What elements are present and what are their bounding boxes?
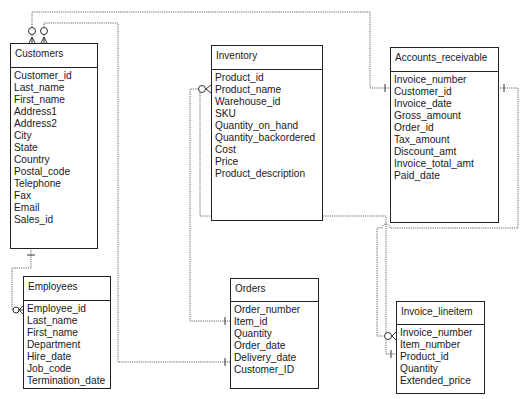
field-customer-id: Customer_id — [14, 70, 93, 82]
entity-title: Customers — [11, 44, 97, 68]
field-product-id: Product_id — [400, 351, 480, 363]
field-quantity: Quantity — [234, 328, 314, 340]
field-sku: SKU — [215, 108, 318, 120]
entity-title: Accounts_receivable — [391, 48, 498, 72]
field-hire-date: Hire_date — [27, 351, 106, 363]
field-order-id: Order_id — [394, 122, 494, 134]
field-gross-amount: Gross_amount — [394, 110, 494, 122]
field-invoice-total-amt: Invoice_total_amt — [394, 158, 494, 170]
field-last-name: Last_name — [14, 82, 93, 94]
field-fax: Fax — [14, 190, 93, 202]
field-order-number: Order_number — [234, 304, 314, 316]
field-order-date: Order_date — [234, 340, 314, 352]
field-list: Order_number Item_id Quantity Order_date… — [231, 302, 318, 376]
field-quantity: Quantity — [400, 363, 480, 375]
field-customer-id: Customer_ID — [234, 364, 314, 376]
field-last-name: Last_name — [27, 315, 106, 327]
entity-accounts-receivable[interactable]: Accounts_receivable Invoice_number Custo… — [390, 47, 499, 223]
field-termination-date: Termination_date — [27, 375, 106, 387]
field-list: Invoice_number Customer_id Invoice_date … — [391, 72, 498, 182]
entity-title: Employees — [24, 277, 110, 301]
entity-title: Inventory — [212, 46, 322, 70]
field-delivery-date: Delivery_date — [234, 352, 314, 364]
field-warehouse-id: Warehouse_id — [215, 96, 318, 108]
field-item-number: Item_number — [400, 339, 480, 351]
field-quantity-on-hand: Quantity_on_hand — [215, 120, 318, 132]
field-address1: Address1 — [14, 106, 93, 118]
field-list: Employee_id Last_name First_name Departm… — [24, 301, 110, 387]
field-tax-amount: Tax_amount — [394, 134, 494, 146]
entity-employees[interactable]: Employees Employee_id Last_name First_na… — [23, 276, 111, 389]
field-first-name: First_name — [14, 94, 93, 106]
field-job-code: Job_code — [27, 363, 106, 375]
entity-title: Orders — [231, 279, 318, 302]
field-telephone: Telephone — [14, 178, 93, 190]
field-price: Price — [215, 156, 318, 168]
field-city: City — [14, 130, 93, 142]
field-product-id: Product_id — [215, 72, 318, 84]
field-list: Customer_id Last_name First_name Address… — [11, 68, 97, 226]
field-employee-id: Employee_id — [27, 303, 106, 315]
field-list: Invoice_number Item_number Product_id Qu… — [397, 325, 484, 387]
field-address2: Address2 — [14, 118, 93, 130]
field-country: Country — [14, 154, 93, 166]
field-postal-code: Postal_code — [14, 166, 93, 178]
field-department: Department — [27, 339, 106, 351]
entity-title: Invoice_lineitem — [397, 302, 484, 325]
field-invoice-date: Invoice_date — [394, 98, 494, 110]
field-list: Product_id Product_name Warehouse_id SKU… — [212, 70, 322, 180]
field-product-name: Product_name — [215, 84, 318, 96]
field-invoice-number: Invoice_number — [394, 74, 494, 86]
field-product-description: Product_description — [215, 168, 318, 180]
field-email: Email — [14, 202, 93, 214]
field-item-id: Item_id — [234, 316, 314, 328]
field-paid-date: Paid_date — [394, 170, 494, 182]
field-sales-id: Sales_id — [14, 214, 93, 226]
field-cost: Cost — [215, 144, 318, 156]
field-customer-id: Customer_id — [394, 86, 494, 98]
field-first-name: First_name — [27, 327, 106, 339]
field-state: State — [14, 142, 93, 154]
field-invoice-number: Invoice_number — [400, 327, 480, 339]
field-discount-amt: Discount_amt — [394, 146, 494, 158]
entity-orders[interactable]: Orders Order_number Item_id Quantity Ord… — [230, 278, 319, 389]
field-quantity-backordered: Quantity_backordered — [215, 132, 318, 144]
entity-customers[interactable]: Customers Customer_id Last_name First_na… — [10, 43, 98, 249]
entity-inventory[interactable]: Inventory Product_id Product_name Wareho… — [211, 45, 323, 221]
entity-invoice-lineitem[interactable]: Invoice_lineitem Invoice_number Item_num… — [396, 301, 485, 394]
field-extended-price: Extended_price — [400, 375, 480, 387]
